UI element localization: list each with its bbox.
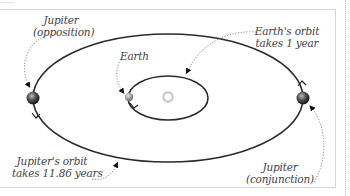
label-jupiter-opposition: Jupiter (opposition) bbox=[33, 14, 89, 38]
label-jupiter-orbit-line2: takes 11.86 years bbox=[12, 167, 92, 179]
label-jupiter-opposition-line2: (opposition) bbox=[33, 26, 89, 38]
label-jupiter-conjunction: Jupiter (conjunction) bbox=[245, 161, 315, 185]
label-earth-orbit-line1: Earth's orbit bbox=[252, 25, 322, 37]
jupiter-opposition-planet-icon bbox=[27, 92, 40, 105]
label-earth: Earth bbox=[120, 50, 160, 62]
leader-jupiter-opposition bbox=[24, 37, 44, 86]
label-jupiter-orbit-line1: Jupiter's orbit bbox=[12, 155, 92, 167]
label-jupiter-conjunction-line1: Jupiter bbox=[245, 161, 315, 173]
label-earth-orbit: Earth's orbit takes 1 year bbox=[252, 25, 322, 49]
leader-earth-orbit bbox=[187, 32, 256, 72]
label-earth-orbit-line2: takes 1 year bbox=[252, 37, 322, 49]
label-earth-line1: Earth bbox=[120, 50, 160, 62]
jupiter-conjunction-planet-icon bbox=[297, 92, 310, 105]
label-jupiter-orbit: Jupiter's orbit takes 11.86 years bbox=[12, 155, 92, 179]
label-jupiter-opposition-line1: Jupiter bbox=[33, 14, 89, 26]
sun-icon bbox=[161, 90, 175, 104]
label-jupiter-conjunction-line2: (conjunction) bbox=[245, 173, 315, 185]
earth-planet-icon bbox=[125, 93, 133, 101]
